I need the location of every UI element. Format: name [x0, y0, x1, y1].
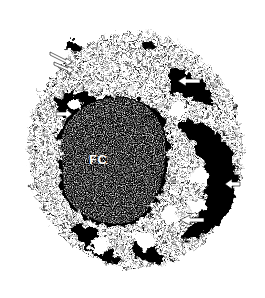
cell-micrograph: [0, 0, 265, 298]
fc-label: FC: [89, 152, 107, 167]
fc-dense-mass: [59, 95, 168, 226]
